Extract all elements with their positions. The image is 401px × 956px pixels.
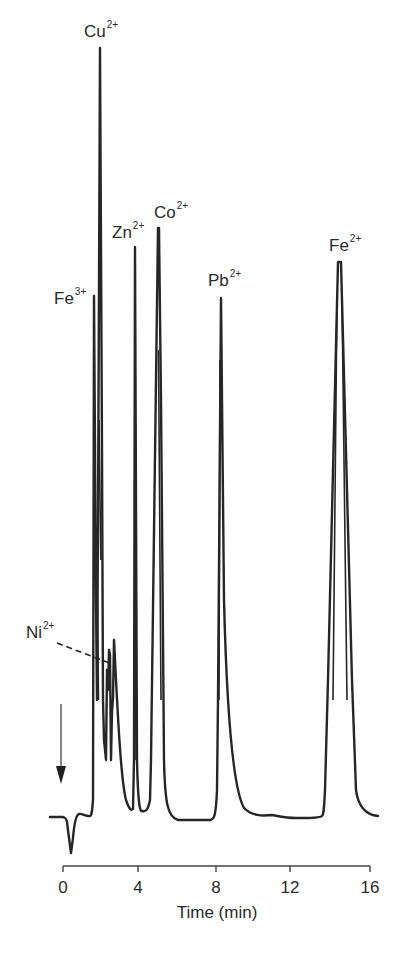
label-fe2: Fe2+	[329, 237, 361, 254]
x-tick-label-0: 0	[58, 878, 67, 898]
label-cu: Cu2+	[84, 23, 118, 40]
label-pb-charge: 2+	[230, 268, 241, 279]
injection-arrow-icon	[56, 704, 66, 784]
label-ni-base: Ni	[26, 623, 42, 642]
x-axis	[63, 866, 370, 872]
x-tick-label-12: 12	[281, 878, 300, 898]
chromatogram-plot	[0, 0, 401, 956]
label-fe3: Fe3+	[54, 290, 86, 307]
label-fe2-charge: 2+	[350, 233, 361, 244]
label-fe2-base: Fe	[329, 236, 349, 255]
label-ni: Ni2+	[26, 624, 54, 641]
x-tick-label-4: 4	[133, 878, 142, 898]
x-tick-label-8: 8	[211, 878, 220, 898]
label-pb: Pb2+	[208, 272, 241, 289]
label-fe3-base: Fe	[54, 289, 74, 308]
label-co-base: Co	[154, 203, 176, 222]
label-zn-charge: 2+	[133, 220, 144, 231]
label-ni-charge: 2+	[43, 620, 54, 631]
label-fe3-charge: 3+	[75, 286, 86, 297]
label-co-charge: 2+	[177, 200, 188, 211]
label-pb-base: Pb	[208, 271, 229, 290]
label-zn: Zn2+	[112, 224, 144, 241]
label-cu-charge: 2+	[107, 19, 118, 30]
label-cu-base: Cu	[84, 22, 106, 41]
x-axis-title: Time (min)	[177, 903, 258, 923]
label-zn-base: Zn	[112, 223, 132, 242]
label-co: Co2+	[154, 204, 188, 221]
x-tick-label-16: 16	[361, 878, 380, 898]
